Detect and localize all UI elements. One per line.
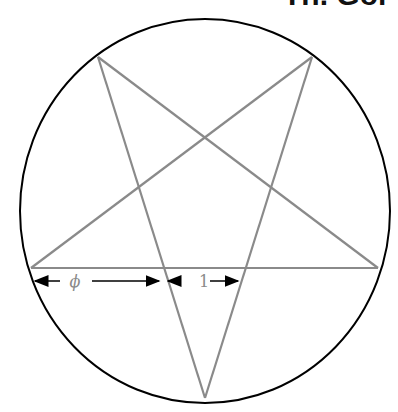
phi-label: ϕ (70, 272, 81, 291)
circumscribed-circle (20, 19, 390, 403)
pentagram-diagram: ϕ 1 (0, 0, 398, 412)
one-label: 1 (199, 272, 209, 291)
pentagram-star (31, 57, 378, 398)
